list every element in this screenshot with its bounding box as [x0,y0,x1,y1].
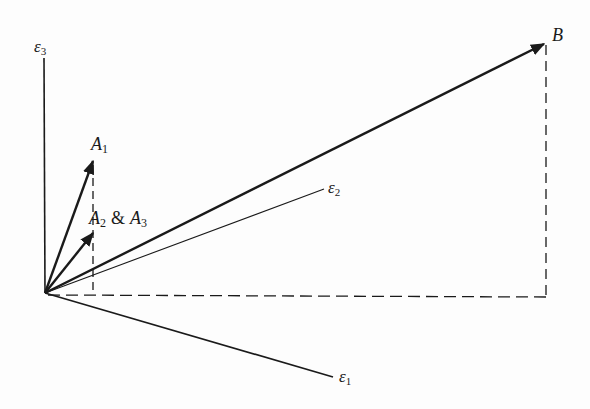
label-b: B [552,25,563,45]
vector-diagram: ε3 ε2 ε1 A1 A2&A3 B [0,0,590,409]
label-e3: ε3 [34,37,47,57]
label-e2: ε2 [328,178,340,198]
label-e1: ε1 [339,367,351,387]
vector-b-arrow [45,44,544,293]
axis-e1-line [45,293,333,377]
horizontal-dashed-line [48,295,546,297]
axis-e3-line [44,58,45,293]
label-a1: A1 [90,134,108,156]
label-a2-a3: A2&A3 [88,208,147,230]
diagram-svg: ε3 ε2 ε1 A1 A2&A3 B [0,0,590,409]
